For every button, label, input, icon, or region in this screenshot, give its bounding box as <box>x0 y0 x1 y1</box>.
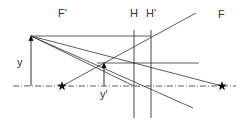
label-principal-plane-h-prime: H' <box>146 8 156 19</box>
ray-through-h <box>31 36 134 86</box>
label-focal-front: F' <box>58 8 67 19</box>
label-object-height: y <box>17 57 23 68</box>
optics-diagram <box>0 0 243 123</box>
label-principal-plane-h: H <box>130 8 138 19</box>
label-focal-back: F <box>218 9 225 20</box>
label-image-height: y' <box>100 89 108 100</box>
